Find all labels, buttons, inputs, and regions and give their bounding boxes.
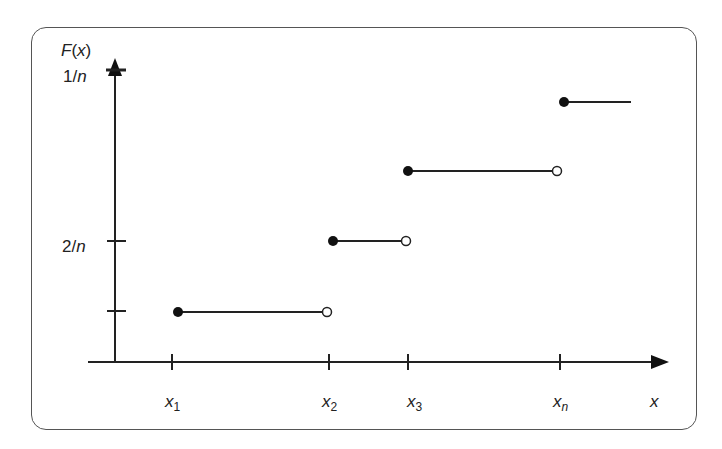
y-axis-arrow-icon — [108, 58, 122, 76]
y-tick-label-1n: 1/n — [63, 67, 87, 86]
step-function-plot: F(x) 1/n 2/n x1 x2 x3 xn x — [0, 0, 722, 449]
closed-dot-icon — [403, 166, 413, 176]
x-axis-label: x — [649, 392, 659, 411]
y-tick-label-2n: 2/n — [62, 237, 86, 256]
y-axis-label: F(x) — [61, 41, 91, 60]
x-tick-label-x1: x1 — [164, 392, 181, 414]
x-axis-arrow-icon — [651, 355, 669, 369]
closed-dot-icon — [173, 307, 183, 317]
x-tick-label-x3: x3 — [406, 392, 423, 414]
x-tick-label-x2: x2 — [321, 392, 338, 414]
open-dot-icon — [323, 308, 332, 317]
x-tick-label-xn: xn — [552, 392, 569, 414]
open-dot-icon — [402, 237, 411, 246]
open-dot-icon — [553, 167, 562, 176]
closed-dot-icon — [559, 97, 569, 107]
closed-dot-icon — [328, 236, 338, 246]
